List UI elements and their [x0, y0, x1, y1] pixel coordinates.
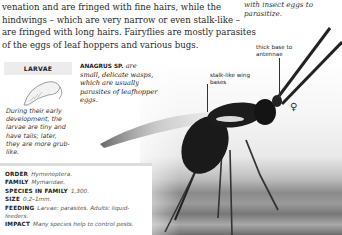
larvae-description: During their early development, the larv…	[4, 107, 72, 156]
larvae-heading: LARVAE	[4, 62, 72, 75]
fact-size: SIZE0.2–1mm.	[5, 195, 152, 203]
fact-family: FAMILYMymaridae.	[5, 178, 152, 186]
fact-key: SPECIES IN FAMILY	[5, 188, 68, 194]
larva-drawing	[4, 75, 72, 107]
fact-box: ORDERHymenoptera. FAMILYMymaridae. SPECI…	[0, 163, 152, 235]
book-page: venation and are fringed with fine hairs…	[0, 0, 342, 235]
female-symbol-icon: ♀	[290, 101, 297, 112]
fact-key: FEEDING	[5, 205, 34, 211]
fact-impact: IMPACTMany species help to control pests…	[5, 220, 152, 228]
fact-key: FAMILY	[5, 179, 28, 185]
fact-order: ORDERHymenoptera.	[5, 170, 152, 178]
fact-species: SPECIES IN FAMILY1,300.	[5, 187, 152, 195]
antennae-label: thick base to antennae	[256, 44, 306, 58]
top-right-caption: with insect eggs to parasitize.	[244, 0, 340, 18]
intro-text: venation and are fringed with fine hairs…	[2, 1, 257, 51]
fact-value: Many species help to control pests.	[33, 221, 134, 227]
wing-leader-line	[207, 84, 208, 112]
anagrus-caption: ANAGRUS SP. are small, delicate wasps, w…	[80, 62, 158, 105]
larva-icon	[4, 75, 72, 107]
antennae-leader-line	[279, 58, 280, 98]
wing-label: stalk-like wing bases	[210, 72, 252, 86]
fact-value: 0.2–1mm.	[23, 196, 51, 202]
species-name: ANAGRUS SP.	[80, 63, 124, 69]
fact-value: 1,300.	[71, 188, 89, 194]
fact-feeding: FEEDINGLarvae: parasites. Adults: liquid…	[5, 204, 145, 221]
intro-paragraph: venation and are fringed with fine hairs…	[2, 1, 257, 51]
fact-value: Hymenoptera.	[31, 171, 72, 177]
fact-key: SIZE	[5, 196, 20, 202]
fact-key: ORDER	[5, 171, 28, 177]
fact-value: Mymaridae.	[31, 179, 65, 185]
fact-key: IMPACT	[5, 221, 30, 227]
larvae-box: LARVAE During their early development, t…	[4, 62, 72, 160]
